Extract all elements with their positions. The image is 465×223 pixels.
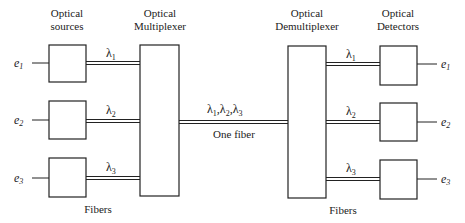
svg-text:Optical: Optical <box>51 7 83 19</box>
fibers-label-left: Fibers <box>84 203 112 215</box>
input-label-3: e3 <box>14 171 23 186</box>
detector-3 <box>326 160 437 199</box>
trunk-fiber <box>179 121 288 124</box>
mux-wavelength-3: λ3 <box>106 160 116 176</box>
one-fiber-caption: One fiber <box>213 128 255 140</box>
source-box-3 <box>49 158 86 197</box>
mux-wavelength-2: λ2 <box>106 103 116 119</box>
source-box-1 <box>49 45 86 82</box>
svg-text:Demultiplexer: Demultiplexer <box>275 20 339 32</box>
svg-text:Multiplexer: Multiplexer <box>134 20 186 32</box>
source-2 <box>32 101 140 139</box>
source-1 <box>32 45 140 82</box>
heading-optical-multiplexer: Optical Multiplexer <box>134 7 186 32</box>
detector-box-2 <box>380 103 417 141</box>
heading-optical-sources: Optical sources <box>51 7 84 32</box>
svg-text:Optical: Optical <box>382 7 414 19</box>
demux-wavelength-3: λ3 <box>346 161 356 177</box>
wdm-diagram: Optical sources Optical Multiplexer Opti… <box>0 0 465 223</box>
detector-box-1 <box>380 46 417 85</box>
output-label-2: e2 <box>441 115 450 130</box>
svg-text:Optical: Optical <box>291 7 323 19</box>
demux-wavelength-2: λ2 <box>346 104 356 120</box>
heading-optical-detectors: Optical Detectors <box>377 7 419 32</box>
output-label-3: e3 <box>441 172 450 187</box>
source-box-2 <box>49 101 86 139</box>
output-label-1: e1 <box>441 57 450 72</box>
mux-wavelength-1: λ1 <box>106 46 116 62</box>
input-label-1: e1 <box>14 56 23 71</box>
heading-optical-demultiplexer: Optical Demultiplexer <box>275 7 339 32</box>
demux-wavelength-1: λ1 <box>346 47 356 63</box>
multiplexer-box <box>140 45 179 196</box>
detector-1 <box>326 46 437 85</box>
detector-box-3 <box>380 160 417 199</box>
demultiplexer-box <box>288 46 326 198</box>
detector-2 <box>326 103 437 141</box>
input-label-2: e2 <box>14 113 23 128</box>
fibers-label-right: Fibers <box>329 204 357 216</box>
svg-text:Detectors: Detectors <box>377 20 419 32</box>
trunk-wavelengths-label: λ1,λ2,λ3 <box>207 102 242 118</box>
svg-text:sources: sources <box>51 20 84 32</box>
source-3 <box>32 158 140 197</box>
svg-text:Optical: Optical <box>144 7 176 19</box>
